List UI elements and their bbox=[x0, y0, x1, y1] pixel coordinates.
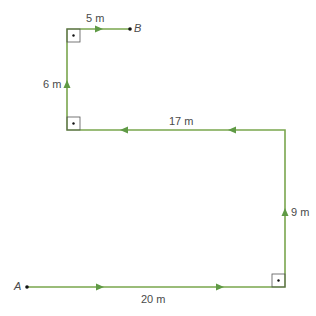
path-drawing bbox=[0, 0, 316, 316]
direction-arrows bbox=[64, 26, 289, 291]
right-angle-marker-middle-left bbox=[67, 117, 80, 130]
point-a-dot bbox=[25, 285, 29, 289]
point-b-dot bbox=[128, 27, 132, 31]
arrow-east-icon bbox=[96, 284, 104, 291]
segment-label-20m: 20 m bbox=[141, 293, 165, 305]
displacement-path bbox=[27, 29, 285, 287]
segment-label-6m: 6 m bbox=[43, 78, 61, 90]
arrow-east-icon bbox=[216, 284, 224, 291]
arrow-north-icon bbox=[64, 80, 71, 88]
segment-label-17m: 17 m bbox=[169, 115, 193, 127]
arrow-east-icon bbox=[95, 26, 103, 33]
segment-label-9m: 9 m bbox=[291, 206, 309, 218]
right-angle-marker-top-left bbox=[67, 29, 80, 42]
displacement-diagram: A B 20 m 9 m 17 m 6 m 5 m bbox=[0, 0, 316, 316]
point-b-label: B bbox=[134, 22, 141, 34]
arrow-north-icon bbox=[282, 208, 289, 216]
point-a-label: A bbox=[14, 280, 21, 292]
right-angle-marker-bottom-right bbox=[272, 274, 285, 287]
arrow-west-icon bbox=[120, 127, 128, 134]
segment-label-5m: 5 m bbox=[86, 12, 104, 24]
arrow-west-icon bbox=[228, 127, 236, 134]
